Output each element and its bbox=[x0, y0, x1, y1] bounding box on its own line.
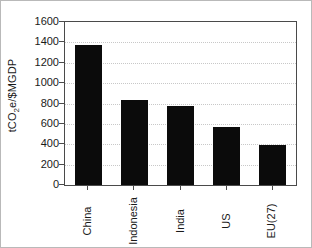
x-axis-tick-label: Indonesia bbox=[126, 191, 140, 247]
x-axis-tick-label-text: China bbox=[81, 207, 93, 236]
x-axis-tick-mark bbox=[133, 185, 134, 190]
bar bbox=[167, 106, 194, 185]
bar bbox=[213, 127, 240, 185]
x-axis-tick-mark bbox=[180, 185, 181, 190]
x-axis-tick-mark bbox=[226, 185, 227, 190]
y-axis-tick-label: 1400 bbox=[0, 36, 59, 47]
y-axis-tick-label: 0 bbox=[0, 179, 59, 190]
y-axis-tick-label: 200 bbox=[0, 158, 59, 169]
chart-figure: tCO2e/$MGDP 0200400600800100012001400160… bbox=[0, 0, 312, 248]
y-axis-title-subscript: 2 bbox=[13, 108, 22, 113]
y-axis-tick-label: 1600 bbox=[0, 16, 59, 27]
bar bbox=[75, 45, 102, 185]
bar bbox=[259, 145, 286, 185]
y-axis-tick-label: 400 bbox=[0, 138, 59, 149]
x-axis-tick-label-text: US bbox=[220, 213, 232, 228]
x-axis-tick-label: India bbox=[173, 191, 187, 247]
x-axis-tick-label: US bbox=[219, 191, 233, 247]
y-axis-tick-label: 600 bbox=[0, 117, 59, 128]
y-axis-tick-label: 1000 bbox=[0, 77, 59, 88]
y-axis-tick-label: 1200 bbox=[0, 56, 59, 67]
plot-area bbox=[64, 21, 297, 186]
bar bbox=[121, 100, 148, 185]
x-axis-tick-mark bbox=[272, 185, 273, 190]
gridline bbox=[65, 42, 296, 43]
x-axis-tick-label-text: India bbox=[174, 209, 186, 233]
x-axis-tick-label: China bbox=[80, 191, 94, 247]
y-axis-tick-label: 800 bbox=[0, 97, 59, 108]
x-axis-tick-mark bbox=[87, 185, 88, 190]
x-axis-tick-label-text: EU(27) bbox=[266, 204, 278, 239]
x-axis-tick-label: EU(27) bbox=[265, 191, 279, 247]
x-axis-tick-label-text: Indonesia bbox=[127, 197, 139, 245]
